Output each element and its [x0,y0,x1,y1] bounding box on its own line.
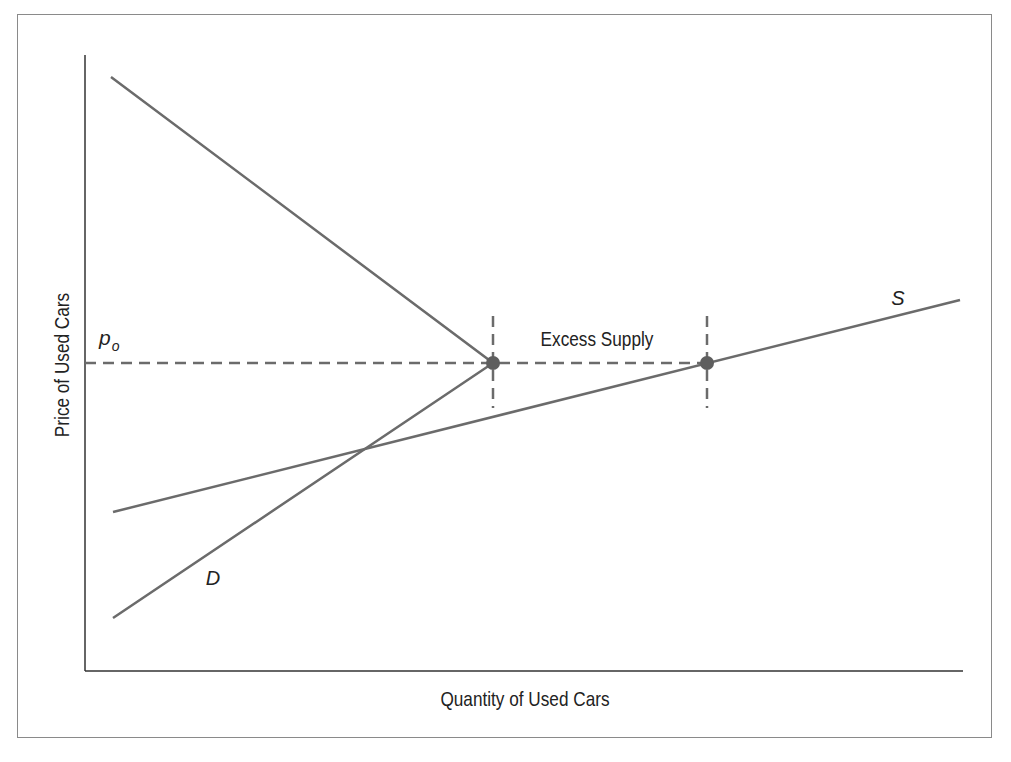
supply-curve [113,300,960,512]
x-axis-label: Quantity of Used Cars [440,688,609,711]
demand-point [486,356,500,370]
demand-label: D [206,567,220,589]
demand-curve [111,77,493,618]
supply-demand-diagram: Excess Supply S D po Quantity of Used Ca… [0,0,1011,762]
price-label-main: p [98,326,111,349]
excess-supply-label: Excess Supply [541,328,654,351]
supply-label: S [891,287,905,309]
price-label-sub: o [112,338,120,354]
y-axis-label: Price of Used Cars [51,293,74,437]
supply-point [700,356,714,370]
price-label: po [98,326,120,354]
